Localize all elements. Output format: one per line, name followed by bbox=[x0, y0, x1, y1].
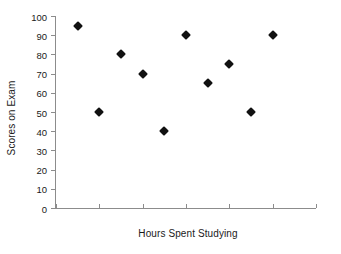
y-tick: 90 bbox=[51, 35, 55, 36]
y-tick: 0 bbox=[51, 208, 55, 209]
data-point bbox=[246, 107, 256, 117]
y-tick-label: 0 bbox=[42, 203, 47, 214]
y-tick-label: 10 bbox=[36, 184, 47, 195]
data-point bbox=[203, 78, 213, 88]
data-point bbox=[73, 21, 83, 31]
y-tick: 80 bbox=[51, 54, 55, 55]
y-tick: 20 bbox=[51, 170, 55, 171]
data-point bbox=[224, 59, 234, 69]
data-point bbox=[181, 30, 191, 40]
y-axis-title-label: Scores on Exam bbox=[6, 81, 17, 156]
data-point bbox=[268, 30, 278, 40]
scatter-chart: Scores on Exam 0102030405060708090100 02… bbox=[0, 0, 341, 254]
x-tick: 8 bbox=[229, 204, 230, 208]
y-tick-label: 90 bbox=[36, 30, 47, 41]
y-tick-label: 30 bbox=[36, 145, 47, 156]
y-tick: 30 bbox=[51, 150, 55, 151]
y-tick-label: 70 bbox=[36, 69, 47, 80]
x-tick: 10 bbox=[273, 204, 274, 208]
y-tick: 100 bbox=[51, 16, 55, 17]
y-axis-title: Scores on Exam bbox=[0, 0, 22, 254]
x-tick: 2 bbox=[99, 204, 100, 208]
y-tick-label: 40 bbox=[36, 126, 47, 137]
data-point bbox=[94, 107, 104, 117]
y-tick: 40 bbox=[51, 131, 55, 132]
y-tick-label: 20 bbox=[36, 165, 47, 176]
x-axis-line bbox=[55, 208, 316, 209]
data-point bbox=[116, 49, 126, 59]
y-tick-label: 100 bbox=[31, 11, 47, 22]
x-tick: 0 bbox=[56, 204, 57, 208]
y-tick-label: 60 bbox=[36, 88, 47, 99]
x-tick: 4 bbox=[143, 204, 144, 208]
x-axis-title: Hours Spent Studying bbox=[56, 228, 320, 239]
data-point bbox=[138, 69, 148, 79]
y-tick: 10 bbox=[51, 189, 55, 190]
y-tick: 60 bbox=[51, 93, 55, 94]
y-axis-line bbox=[55, 16, 56, 208]
y-tick-label: 50 bbox=[36, 107, 47, 118]
y-tick: 50 bbox=[51, 112, 55, 113]
x-tick: 6 bbox=[186, 204, 187, 208]
plot-area: 0102030405060708090100 024681012 bbox=[56, 16, 316, 208]
y-tick-label: 80 bbox=[36, 49, 47, 60]
data-point bbox=[159, 126, 169, 136]
x-tick: 12 bbox=[316, 204, 317, 208]
y-tick: 70 bbox=[51, 74, 55, 75]
